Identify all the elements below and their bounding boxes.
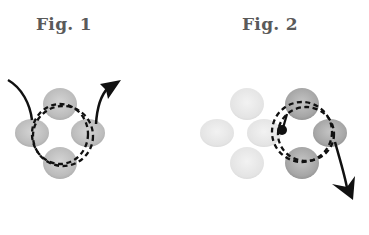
fig-2-drawing xyxy=(200,88,355,200)
marker-dot-icon xyxy=(277,125,287,135)
diagram-drawing xyxy=(0,0,369,235)
arrow-icon xyxy=(332,142,355,200)
fig-1-drawing xyxy=(8,80,121,179)
faded-lobe-top xyxy=(230,88,264,120)
faded-lobe-bottom xyxy=(230,147,264,179)
diagram-canvas: Fig. 1 Fig. 2 xyxy=(0,0,369,235)
faded-lobe-left xyxy=(200,119,234,147)
faded-lobe-center xyxy=(247,119,281,147)
